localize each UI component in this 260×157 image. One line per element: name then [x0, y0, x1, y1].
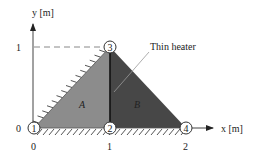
y-axis-label: y [m]	[32, 7, 54, 18]
hatch-mark	[97, 129, 102, 135]
node-4-label: 4	[184, 123, 189, 134]
hatch-mark	[85, 65, 91, 67]
hatch-mark	[139, 129, 144, 135]
node-2: 2	[104, 122, 116, 134]
node-3-label: 3	[108, 42, 113, 53]
x-tick-2: 2	[183, 141, 188, 152]
y-tick-1: 1	[16, 42, 21, 53]
hatch-mark	[121, 129, 126, 135]
x-axis-label: x [m]	[221, 123, 243, 134]
heat-conduction-diagram: y [m] x [m] 1 0 0 1 2 A B Thin heater 1 …	[0, 0, 260, 157]
hatch-mark	[42, 111, 48, 113]
hatch-mark	[127, 129, 132, 135]
region-a-label: A	[78, 99, 86, 110]
hatch-mark	[76, 75, 82, 77]
hatch-mark	[52, 101, 58, 103]
x-tick-0: 0	[31, 141, 36, 152]
hatch-mark	[175, 129, 180, 135]
hatch-mark	[85, 129, 90, 135]
hatch-mark	[91, 129, 96, 135]
hatch-mark	[163, 129, 168, 135]
hatch-mark	[80, 70, 86, 72]
region-b-label: B	[134, 99, 140, 110]
hatch-mark	[61, 129, 66, 135]
hatch-mark	[55, 129, 60, 135]
hatch-mark	[90, 60, 96, 62]
hatch-mark	[71, 80, 77, 82]
region-b	[110, 47, 186, 128]
hatch-mark	[66, 86, 72, 88]
hatch-mark	[79, 129, 84, 135]
hatch-mark	[47, 106, 53, 108]
hatch-mark	[99, 50, 105, 52]
x-tick-1: 1	[107, 141, 112, 152]
hatch-mark	[133, 129, 138, 135]
node-4: 4	[180, 122, 192, 134]
node-1-label: 1	[32, 123, 37, 134]
hatch-mark	[67, 129, 72, 135]
hatch-mark	[73, 129, 78, 135]
hatch-mark	[169, 129, 174, 135]
hatch-mark	[57, 96, 63, 98]
hatch-mark	[61, 91, 67, 93]
hatch-mark	[157, 129, 162, 135]
y-tick-0: 0	[16, 123, 21, 134]
hatch-mark	[38, 116, 44, 118]
hatch-mark	[145, 129, 150, 135]
hatch-mark	[151, 129, 156, 135]
node-3: 3	[104, 41, 116, 53]
hatch-mark	[49, 129, 54, 135]
hatch-mark	[95, 55, 101, 57]
hatch-mark	[43, 129, 48, 135]
heater-label: Thin heater	[150, 41, 196, 52]
node-2-label: 2	[108, 123, 113, 134]
node-1: 1	[28, 122, 40, 134]
